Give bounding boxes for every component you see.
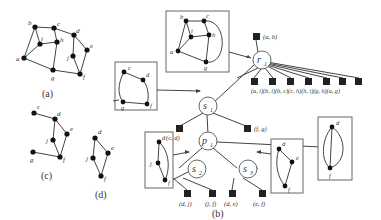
- svg-text:2: 2: [199, 170, 202, 176]
- svg-text:(d, j): (d, j): [179, 200, 192, 208]
- svg-text:c: c: [206, 12, 209, 19]
- svg-text:s: s: [203, 100, 207, 111]
- svg-text:e: e: [70, 125, 73, 133]
- svg-text:f: f: [83, 73, 86, 81]
- skeleton-p1: d f: [318, 117, 352, 180]
- svg-text:(j, f): (j, f): [205, 200, 216, 208]
- svg-text:f: f: [63, 156, 66, 164]
- svg-text:(c, d): (c, d): [166, 134, 180, 142]
- svg-text:1: 1: [210, 142, 213, 148]
- svg-text:p: p: [201, 135, 207, 146]
- tree-node-s3: s 3: [239, 160, 257, 178]
- svg-text:e: e: [296, 154, 299, 161]
- svg-text:i: i: [41, 35, 43, 43]
- tree-node-s1: s 1: [199, 97, 217, 115]
- caption-b: (b): [212, 208, 224, 220]
- svg-text:c: c: [37, 103, 41, 111]
- graph-d: d e f j (d): [85, 128, 114, 201]
- svg-text:1: 1: [210, 107, 213, 113]
- svg-text:g: g: [30, 156, 34, 164]
- graph-a: a b c d e f g h i j (a): [16, 19, 93, 100]
- svg-text:h: h: [212, 31, 215, 38]
- tree-node-r1: r 1: [253, 51, 271, 69]
- svg-text:f: f: [104, 175, 107, 183]
- svg-text:s: s: [243, 163, 247, 174]
- tree-node-s2: s 2: [188, 160, 206, 178]
- svg-text:j: j: [149, 160, 152, 167]
- svg-text:(e, f): (e, f): [253, 200, 265, 208]
- svg-text:h: h: [60, 36, 64, 44]
- svg-text:j: j: [66, 54, 69, 62]
- svg-text:j: j: [85, 155, 88, 163]
- spqr-diagram: a b c d e f g h i j (a) c d e f g j (c): [0, 0, 381, 220]
- svg-text:d: d: [76, 27, 80, 35]
- svg-text:d: d: [57, 110, 61, 118]
- svg-text:s: s: [192, 163, 196, 174]
- tree-node-p1: p 1: [199, 132, 217, 150]
- caption-d: (d): [95, 189, 107, 201]
- svg-text:c: c: [57, 20, 61, 28]
- graph-c: c d e f g j (c): [30, 103, 73, 182]
- svg-text:d: d: [98, 128, 102, 136]
- caption-a: (a): [42, 88, 53, 100]
- skeleton-s1: c d g f: [115, 62, 157, 111]
- svg-text:(a, b): (a, b): [263, 33, 277, 41]
- svg-text:e: e: [90, 42, 93, 50]
- svg-text:c: c: [128, 64, 131, 71]
- svg-text:a: a: [16, 55, 20, 63]
- svg-text:r: r: [257, 54, 261, 65]
- svg-text:e: e: [111, 144, 114, 152]
- svg-text:1: 1: [264, 61, 267, 67]
- skeleton-s3: d e f: [271, 139, 303, 193]
- spqr-tree: b c i h a g c d g f: [113, 11, 362, 220]
- svg-text:a: a: [170, 48, 173, 55]
- svg-text:j: j: [45, 137, 48, 145]
- svg-text:g: g: [51, 74, 55, 82]
- svg-text:b: b: [28, 19, 32, 27]
- svg-text:3: 3: [249, 170, 253, 176]
- svg-text:(a, i)(b, i)(b, c)(c, h)(h, i): (a, i)(b, i)(b, c)(c, h)(h, i)(g, h)(a, …: [251, 87, 340, 95]
- skeleton-r1: b c i h a g: [166, 11, 229, 72]
- svg-text:(d, e): (d, e): [224, 200, 238, 208]
- svg-text:i: i: [191, 27, 193, 34]
- caption-c: (c): [41, 170, 52, 182]
- svg-text:(f, g): (f, g): [254, 125, 267, 133]
